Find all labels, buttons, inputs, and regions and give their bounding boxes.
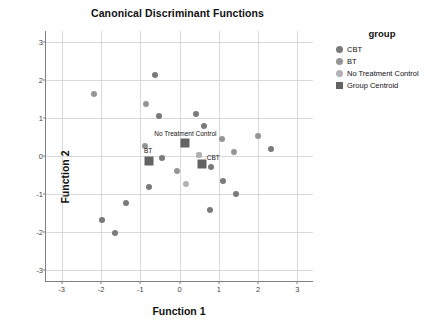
gridline-horizontal [46,194,313,195]
group-centroid-marker [144,156,153,165]
legend-item[interactable]: Group Centroid [336,80,432,91]
centroid-label: BT [144,146,152,153]
data-point [152,72,158,78]
legend-item-label: CBT [347,45,362,54]
legend-swatch-icon [336,70,343,77]
legend: group CBTBTNo Treatment ControlGroup Cen… [336,28,432,92]
data-point [91,91,97,97]
y-tick-mark [43,231,46,232]
data-point [219,136,225,142]
y-tick-label: -3 [36,265,43,274]
gridline-horizontal [46,232,313,233]
data-point [231,149,237,155]
y-tick-mark [43,118,46,119]
gridline-horizontal [46,270,313,271]
data-point [268,146,274,152]
data-point [255,133,261,139]
legend-item[interactable]: CBT [336,44,432,55]
data-point [233,191,239,197]
y-tick-label: 3 [39,38,43,47]
data-point [146,184,152,190]
data-point [156,113,162,119]
x-tick-label: 1 [217,285,221,294]
data-point [207,207,213,213]
y-axis-label: Function 2 [59,112,71,242]
gridline-horizontal [46,118,313,119]
x-tick-mark [179,281,180,284]
data-point [112,230,118,236]
discriminant-scatter-figure: Canonical Discriminant Functions No Trea… [0,0,433,332]
legend-item[interactable]: BT [336,56,432,67]
legend-swatch-icon [336,58,343,65]
x-tick-mark [297,281,298,284]
data-point [143,101,149,107]
plot-area: No Treatment ControlBTCBT Function 2 -3-… [45,31,313,282]
legend-items: CBTBTNo Treatment ControlGroup Centroid [336,44,432,91]
group-centroid-marker [181,138,190,147]
y-tick-mark [43,269,46,270]
y-tick-label: 0 [39,152,43,161]
y-tick-mark [43,193,46,194]
group-centroid-marker [198,160,207,169]
x-tick-label: -3 [58,285,65,294]
legend-swatch-icon [336,82,343,89]
x-tick-mark [100,281,101,284]
x-tick-label: -1 [137,285,144,294]
data-point [123,200,129,206]
y-tick-label: 2 [39,76,43,85]
page-title: Canonical Discriminant Functions [40,7,315,19]
data-point [196,152,202,158]
x-tick-label: 2 [256,285,260,294]
legend-item[interactable]: No Treatment Control [336,68,432,79]
plot-canvas: No Treatment ControlBTCBT [46,31,313,281]
x-tick-label: 0 [177,285,181,294]
legend-item-label: No Treatment Control [347,69,419,78]
data-point [193,111,199,117]
legend-item-label: Group Centroid [347,81,398,90]
gridline-horizontal [46,156,313,157]
gridline-horizontal [46,80,313,81]
y-tick-label: -1 [36,189,43,198]
legend-title: group [336,28,428,39]
x-tick-label: -2 [98,285,105,294]
x-tick-mark [258,281,259,284]
data-point [208,164,214,170]
y-tick-mark [43,42,46,43]
legend-swatch-icon [336,46,343,53]
centroid-label: No Treatment Control [154,130,216,137]
data-point [183,181,189,187]
y-tick-mark [43,80,46,81]
x-tick-mark [140,281,141,284]
x-tick-mark [61,281,62,284]
y-tick-label: 1 [39,114,43,123]
data-point [201,123,207,129]
y-tick-mark [43,156,46,157]
data-point [174,168,180,174]
legend-item-label: BT [347,57,357,66]
data-point [99,217,105,223]
x-axis-label: Function 1 [45,305,313,317]
centroid-label: CBT [207,153,220,160]
data-point [220,178,226,184]
x-tick-mark [218,281,219,284]
x-tick-label: 3 [295,285,299,294]
gridline-horizontal [46,42,313,43]
y-tick-label: -2 [36,227,43,236]
data-point [159,155,165,161]
